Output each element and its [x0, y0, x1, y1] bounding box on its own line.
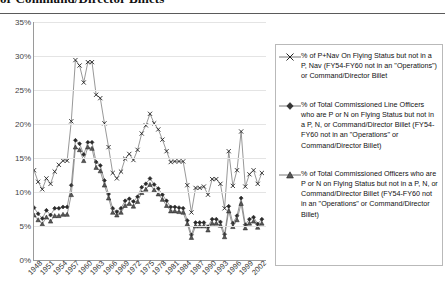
y-axis-labels: 0%5%10%15%20%25%30%35% [0, 16, 31, 261]
series-markers [34, 138, 264, 237]
title-divider [0, 13, 445, 14]
y-axis-tick: 20% [15, 120, 31, 129]
y-axis-tick: 5% [19, 222, 31, 231]
gridline [34, 158, 266, 159]
series-line [34, 140, 262, 235]
gridline [34, 90, 266, 91]
legend-label: % of P+Nav On Flying Status but not in a… [301, 51, 438, 82]
x-axis-labels: 1948195119541957196019631966196919721975… [33, 262, 273, 299]
plot-area [33, 22, 266, 261]
y-axis-tick: 30% [15, 52, 31, 61]
legend-item: % of Total Commissioned Officers who are… [279, 169, 438, 220]
chart-lines [34, 22, 266, 260]
y-axis-tick: 25% [15, 86, 31, 95]
chart-figure: 0%5%10%15%20%25%30%35% 19481951195419571… [0, 16, 445, 299]
gridline [34, 124, 266, 125]
legend-label: % of Total Commissioned Line Officers wh… [301, 100, 438, 151]
y-axis-tick: 10% [15, 188, 31, 197]
y-axis-tick: 35% [15, 18, 31, 27]
gridline [34, 22, 266, 23]
y-axis-tick: 0% [19, 256, 31, 265]
gridline [34, 56, 266, 57]
y-axis-tick: 15% [15, 154, 31, 163]
x-marker-icon [279, 52, 301, 62]
series-line [34, 60, 262, 212]
gridline [34, 226, 266, 227]
legend-item: % of P+Nav On Flying Status but not in a… [279, 51, 438, 82]
gridline [34, 192, 266, 193]
legend-label: % of Total Commissioned Officers who are… [301, 169, 438, 220]
triangle-marker-icon [279, 170, 301, 180]
diamond-marker-icon [279, 101, 301, 111]
legend-item: % of Total Commissioned Line Officers wh… [279, 100, 438, 151]
chart-legend: % of P+Nav On Flying Status but not in a… [275, 44, 443, 266]
page-title: or Command/Director Billets [0, 0, 445, 7]
